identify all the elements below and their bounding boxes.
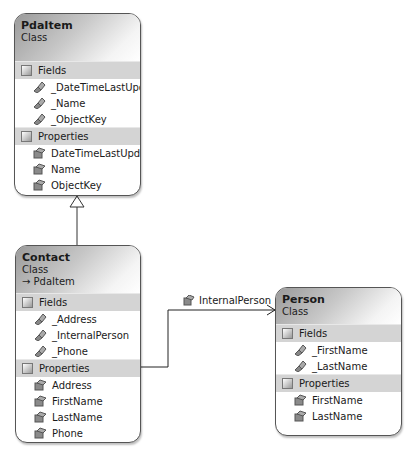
association-label[interactable]: InternalPerson [183,295,271,306]
class-header: Contact Class → PdaItem [16,246,140,293]
property-item[interactable]: LastName [276,408,401,424]
field-item[interactable]: _FirstName [276,342,401,358]
class-kind: Class [22,264,134,276]
property-icon [34,379,47,391]
field-icon [294,344,307,356]
class-header: Person Class [276,288,401,324]
field-icon [33,81,46,93]
collapse-icon[interactable] [21,65,32,76]
collapse-icon[interactable] [22,297,33,308]
class-contact[interactable]: Contact Class → PdaItem Fields _Address … [15,245,141,443]
property-icon [294,394,307,406]
field-item[interactable]: _Address [16,311,140,327]
property-item[interactable]: FirstName [276,392,401,408]
inheritance-arrow-icon [70,196,84,207]
fields-section-header[interactable]: Fields [16,293,140,311]
property-item[interactable]: Phone [16,425,140,441]
property-icon [34,395,47,407]
field-item[interactable]: _DateTimeLastUpd... [15,79,140,95]
property-icon [34,427,47,439]
class-kind: Class [282,306,395,318]
field-icon [294,360,307,372]
property-item[interactable]: FirstName [16,393,140,409]
fields-section-header[interactable]: Fields [15,61,140,79]
class-person[interactable]: Person Class Fields _FirstName _LastName… [275,287,402,436]
collapse-icon[interactable] [282,378,293,389]
class-header: PdaItem Class [15,14,140,61]
field-icon [34,345,47,357]
property-icon [183,295,195,306]
property-item[interactable]: Address [16,377,140,393]
property-icon [294,410,307,422]
field-item[interactable]: _Name [15,95,140,111]
collapse-icon[interactable] [21,131,32,142]
association-line[interactable] [139,310,275,367]
property-item[interactable]: LastName [16,409,140,425]
class-name: Person [282,293,395,306]
field-icon [33,97,46,109]
class-name: PdaItem [21,19,134,32]
field-item[interactable]: _Phone [16,343,140,359]
property-item[interactable]: DateTimeLastUpd... [15,145,140,161]
property-icon [34,411,47,423]
property-item[interactable]: Name [15,161,140,177]
field-icon [34,329,47,341]
field-item[interactable]: _ObjectKey [15,111,140,127]
class-kind: Class [21,32,134,44]
association-label-text: InternalPerson [199,295,271,306]
field-item[interactable]: _InternalPerson [16,327,140,343]
class-name: Contact [22,251,134,264]
field-icon [33,113,46,125]
properties-section-header[interactable]: Properties [16,359,140,377]
property-icon [33,147,46,159]
property-icon [33,163,46,175]
fields-section-header[interactable]: Fields [276,324,401,342]
class-pdaitem[interactable]: PdaItem Class Fields _DateTimeLastUpd...… [14,13,141,196]
property-icon [33,179,46,191]
field-icon [34,313,47,325]
properties-section-header[interactable]: Properties [15,127,140,145]
base-class[interactable]: → PdaItem [22,276,134,288]
property-item[interactable]: ObjectKey [15,177,140,193]
properties-section-header[interactable]: Properties [276,374,401,392]
collapse-icon[interactable] [282,328,293,339]
field-item[interactable]: _LastName [276,358,401,374]
collapse-icon[interactable] [22,363,33,374]
